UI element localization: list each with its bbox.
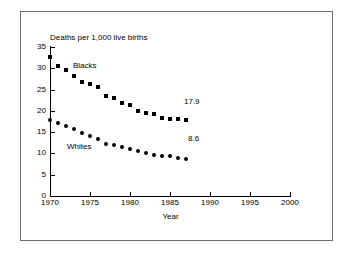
x-tick-1995 — [250, 192, 251, 196]
y-tick-label-25: 25 — [28, 85, 46, 94]
data-point-whites-1979 — [120, 145, 124, 149]
x-axis-line — [50, 196, 291, 197]
data-point-whites-1981 — [136, 149, 140, 153]
x-tick-1985 — [170, 192, 171, 196]
data-point-blacks-1983 — [152, 112, 156, 116]
data-point-blacks-1970 — [48, 55, 52, 59]
data-point-blacks-1979 — [120, 101, 124, 105]
y-tick-35 — [51, 47, 55, 48]
data-point-blacks-1976 — [96, 85, 100, 89]
data-point-whites-1984 — [160, 154, 164, 158]
y-tick-label-30: 30 — [28, 63, 46, 72]
data-point-blacks-1986 — [176, 117, 180, 121]
x-tick-label-1995: 1995 — [235, 198, 265, 207]
x-tick-label-1990: 1990 — [195, 198, 225, 207]
data-point-whites-1986 — [176, 156, 180, 160]
y-tick-label-35: 35 — [28, 42, 46, 51]
y-tick-15 — [51, 132, 55, 133]
y-tick-20 — [51, 111, 55, 112]
y-tick-label-15: 15 — [28, 127, 46, 136]
data-point-blacks-1981 — [136, 109, 140, 113]
data-point-blacks-1977 — [104, 94, 108, 98]
y-tick-label-0: 0 — [28, 191, 46, 200]
data-point-blacks-1974 — [80, 80, 84, 84]
data-point-whites-1983 — [152, 153, 156, 157]
data-point-blacks-1987 — [184, 118, 188, 122]
series-label-whites: Whites — [67, 142, 91, 151]
data-point-blacks-1972 — [64, 68, 68, 72]
y-tick-label-20: 20 — [28, 106, 46, 115]
data-point-whites-1976 — [96, 137, 100, 141]
data-point-blacks-1984 — [160, 116, 164, 120]
data-point-whites-1973 — [72, 127, 76, 131]
data-point-blacks-1978 — [112, 96, 116, 100]
chart-axis-title: Deaths per 1,000 live births — [50, 33, 147, 42]
data-point-whites-1982 — [144, 151, 148, 155]
data-point-blacks-1982 — [144, 111, 148, 115]
annotation-blacks-endpoint: 17.9 — [184, 97, 200, 106]
x-tick-label-1980: 1980 — [115, 198, 145, 207]
x-tick-1990 — [210, 192, 211, 196]
x-tick-label-1975: 1975 — [75, 198, 105, 207]
data-point-whites-1972 — [64, 124, 68, 128]
x-tick-1980 — [130, 192, 131, 196]
y-tick-25 — [51, 90, 55, 91]
y-tick-10 — [51, 153, 55, 154]
x-tick-label-2000: 2000 — [275, 198, 305, 207]
data-point-whites-1970 — [48, 118, 52, 122]
data-point-whites-1978 — [112, 143, 116, 147]
data-point-whites-1985 — [168, 154, 172, 158]
x-tick-2000 — [290, 192, 291, 196]
data-point-whites-1975 — [88, 134, 92, 138]
data-point-blacks-1985 — [168, 117, 172, 121]
series-label-blacks: Blacks — [73, 61, 97, 70]
x-tick-label-1985: 1985 — [155, 198, 185, 207]
y-tick-label-5: 5 — [28, 170, 46, 179]
y-tick-0 — [51, 196, 55, 197]
data-point-whites-1980 — [128, 147, 132, 151]
chart-plot-area: Deaths per 1,000 live births Year 197019… — [0, 0, 351, 253]
data-point-whites-1971 — [56, 121, 60, 125]
annotation-whites-endpoint: 8.6 — [188, 134, 199, 143]
y-tick-label-10: 10 — [28, 148, 46, 157]
data-point-blacks-1980 — [128, 103, 132, 107]
x-tick-1975 — [90, 192, 91, 196]
x-axis-label: Year — [50, 212, 291, 221]
data-point-whites-1987 — [184, 157, 188, 161]
data-point-whites-1977 — [104, 142, 108, 146]
data-point-blacks-1973 — [72, 74, 76, 78]
data-point-blacks-1975 — [88, 82, 92, 86]
data-point-whites-1974 — [80, 131, 84, 135]
y-tick-30 — [51, 68, 55, 69]
y-tick-5 — [51, 175, 55, 176]
data-point-blacks-1971 — [56, 64, 60, 68]
